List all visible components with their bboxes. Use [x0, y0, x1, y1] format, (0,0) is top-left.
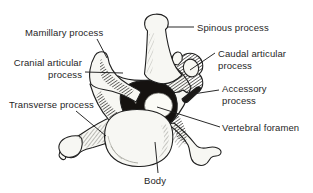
figure-vertebra-diagram: Mamillary process Spinous process Crania… — [0, 0, 313, 193]
label-body: Body — [144, 175, 166, 187]
label-cranial-articular-process: Cranial articular process — [0, 57, 82, 81]
label-caudal-articular-process: Caudal articular process — [218, 48, 286, 72]
label-mamillary-process: Mamillary process — [25, 27, 103, 39]
label-transverse-process: Transverse process — [9, 99, 94, 111]
label-vertebral-foramen: Vertebral foramen — [222, 122, 299, 134]
label-spinous-process: Spinous process — [197, 22, 269, 34]
label-accessory-process: Accessory process — [222, 83, 267, 107]
vertebral-body-shape — [105, 110, 173, 167]
